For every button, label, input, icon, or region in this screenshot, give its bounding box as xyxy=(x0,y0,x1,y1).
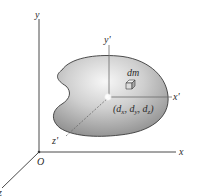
z-prime-label: z' xyxy=(51,135,59,146)
y-axis-label: y xyxy=(34,9,40,20)
z-axis xyxy=(2,152,39,188)
z-axis-label: z xyxy=(0,187,2,196)
y-prime-label: y' xyxy=(103,34,111,45)
origin-label: O xyxy=(37,156,44,167)
origin-point xyxy=(38,151,41,154)
x-axis-label: x xyxy=(178,146,184,157)
local-origin-highlight xyxy=(104,93,112,101)
paren-close: ) xyxy=(149,103,154,115)
mass-element-label: dm xyxy=(127,67,139,78)
x-prime-label: x' xyxy=(172,91,180,102)
rigid-body-axes-diagram: y x z O y' x' z' dm (dx, dy, dz) xyxy=(0,0,199,196)
mass-element-cube-icon xyxy=(126,80,135,89)
